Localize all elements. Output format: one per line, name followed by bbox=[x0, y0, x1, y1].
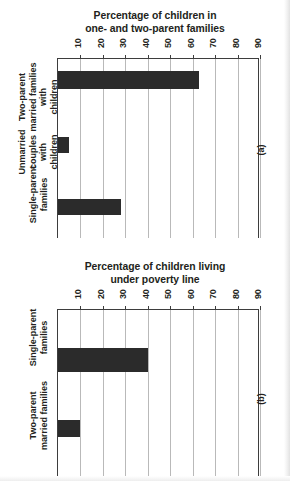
bar bbox=[58, 348, 148, 372]
axis-tick-mark bbox=[103, 55, 104, 59]
chart-title-b: Percentage of children living under pove… bbox=[60, 260, 250, 286]
gridline bbox=[238, 59, 239, 238]
chart-title-b-text-line1: Percentage of children living bbox=[85, 261, 226, 272]
axis-tick-mark bbox=[125, 306, 126, 310]
category-label: Two-parent married families bbox=[28, 356, 49, 476]
axis-tick-mark bbox=[80, 306, 81, 310]
axis-tick-label: 20 bbox=[96, 38, 106, 48]
axis-tick-label: 40 bbox=[141, 289, 151, 299]
axis-tick-mark bbox=[103, 306, 104, 310]
bar bbox=[58, 71, 199, 89]
chart-title-b-text-line2: under poverty line bbox=[110, 274, 199, 285]
axis-tick-mark bbox=[193, 306, 194, 310]
bar bbox=[58, 420, 80, 437]
axis-tick-label: 50 bbox=[163, 289, 173, 299]
axis-tick-mark bbox=[170, 306, 171, 310]
gridline bbox=[215, 59, 216, 238]
gridline bbox=[238, 310, 239, 480]
axis-tick-label: 70 bbox=[208, 289, 218, 299]
axis-tick-mark bbox=[215, 306, 216, 310]
axis-tick-mark bbox=[148, 55, 149, 59]
chart-title-a-text-line1: Percentage of children in bbox=[94, 10, 217, 21]
panel-marker-a: (a) bbox=[256, 145, 266, 156]
bar bbox=[58, 137, 69, 153]
axis-tick-label: 20 bbox=[96, 289, 106, 299]
axis-tick-mark bbox=[80, 55, 81, 59]
gridline bbox=[103, 310, 104, 480]
figure-page: Percentage of children in one- and two-p… bbox=[0, 0, 290, 481]
axis-tick-label: 80 bbox=[231, 38, 241, 48]
axis-tick-mark bbox=[148, 306, 149, 310]
gridline bbox=[215, 310, 216, 480]
axis-tick-label: 90 bbox=[253, 38, 263, 48]
chart-panel-b: Percentage of children living under pove… bbox=[0, 241, 290, 481]
chart-title-a: Percentage of children in one- and two-p… bbox=[60, 9, 250, 35]
panel-marker-b: (b) bbox=[256, 393, 266, 405]
axis-tick-mark bbox=[260, 55, 261, 59]
plot-area-b bbox=[57, 309, 259, 481]
axis-tick-label: 50 bbox=[163, 38, 173, 48]
gridline bbox=[125, 310, 126, 480]
gridline bbox=[170, 310, 171, 480]
gridline bbox=[193, 310, 194, 480]
axis-tick-label: 90 bbox=[253, 289, 263, 299]
axis-tick-mark bbox=[238, 306, 239, 310]
chart-title-a-text-line2: one- and two-parent families bbox=[85, 23, 224, 34]
axis-tick-label: 40 bbox=[141, 38, 151, 48]
category-label: Single-parent families bbox=[28, 150, 49, 240]
axis-tick-mark bbox=[193, 55, 194, 59]
axis-tick-mark bbox=[238, 55, 239, 59]
page-edge-shadow-bottom bbox=[0, 476, 290, 481]
page-edge-shadow-right bbox=[284, 0, 290, 481]
axis-tick-label: 10 bbox=[73, 38, 83, 48]
axis-tick-label: 70 bbox=[208, 38, 218, 48]
axis-tick-mark bbox=[215, 55, 216, 59]
axis-tick-mark bbox=[170, 55, 171, 59]
gridline bbox=[148, 310, 149, 480]
axis-tick-label: 30 bbox=[118, 38, 128, 48]
chart-panel-a: Percentage of children in one- and two-p… bbox=[0, 0, 290, 241]
axis-tick-mark bbox=[260, 306, 261, 310]
gridline bbox=[80, 310, 81, 480]
axis-tick-label: 80 bbox=[231, 289, 241, 299]
bar bbox=[58, 199, 121, 215]
axis-tick-label: 30 bbox=[118, 289, 128, 299]
axis-tick-label: 60 bbox=[186, 289, 196, 299]
axis-tick-mark bbox=[125, 55, 126, 59]
axis-tick-label: 60 bbox=[186, 38, 196, 48]
plot-area-a bbox=[57, 58, 259, 238]
axis-tick-label: 10 bbox=[73, 289, 83, 299]
